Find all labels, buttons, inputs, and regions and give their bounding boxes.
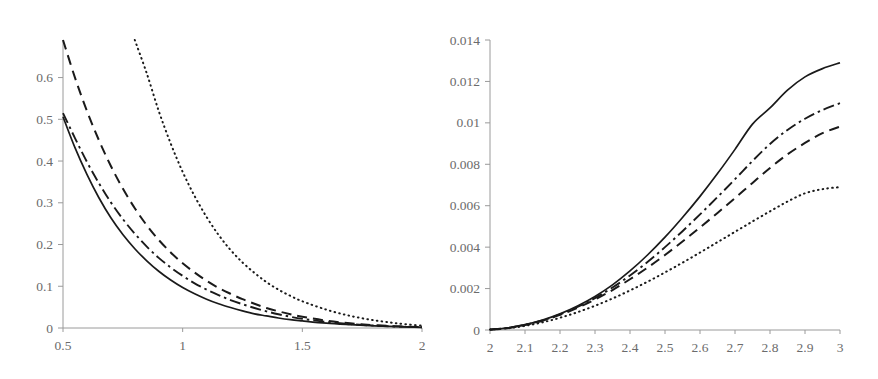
right-tick-labels: 00.0020.0040.0060.0080.010.0120.01422.12… xyxy=(450,33,844,356)
y-tick-label: 0.4 xyxy=(36,154,53,169)
y-tick-label: 0.006 xyxy=(450,198,481,213)
right-axes xyxy=(485,40,840,334)
x-tick-label: 2.6 xyxy=(692,340,709,355)
x-tick-label: 2.2 xyxy=(552,340,569,355)
x-tick-label: 2 xyxy=(419,338,426,353)
x-tick-label: 1.5 xyxy=(294,338,311,353)
y-tick-label: 0.01 xyxy=(456,115,480,130)
curve-dash-dot xyxy=(490,103,840,329)
right-y-ticks xyxy=(485,40,490,330)
x-tick-label: 0.5 xyxy=(55,338,72,353)
curve-solid xyxy=(63,117,422,328)
y-tick-label: 0 xyxy=(46,321,53,336)
y-tick-label: 0.002 xyxy=(450,281,480,296)
x-tick-label: 2 xyxy=(487,340,494,355)
y-tick-label: 0.008 xyxy=(450,157,481,172)
curve-dashed xyxy=(63,40,422,327)
left-y-ticks xyxy=(58,78,63,328)
y-tick-label: 0.012 xyxy=(450,74,480,89)
x-tick-label: 2.4 xyxy=(622,340,639,355)
left-panel-svg: 00.10.20.30.40.50.60.511.52 xyxy=(0,0,440,379)
chart-panel-left: 00.10.20.30.40.50.60.511.52 xyxy=(0,0,440,379)
x-tick-label: 3 xyxy=(837,340,844,355)
y-tick-label: 0.5 xyxy=(36,112,53,127)
left-x-ticks xyxy=(63,328,422,332)
y-tick-label: 0.004 xyxy=(450,240,481,255)
x-tick-label: 2.3 xyxy=(587,340,604,355)
right-x-ticks xyxy=(490,330,840,334)
x-tick-label: 2.8 xyxy=(762,340,779,355)
y-tick-label: 0.6 xyxy=(36,70,53,85)
y-tick-label: 0 xyxy=(473,323,480,338)
curve-dotted xyxy=(490,187,840,330)
curve-dash-dot xyxy=(63,113,422,327)
y-tick-label: 0.1 xyxy=(36,279,53,294)
curve-dotted xyxy=(135,40,422,326)
x-tick-label: 2.1 xyxy=(517,340,534,355)
y-tick-label: 0.2 xyxy=(36,237,53,252)
left-curves xyxy=(63,40,422,327)
right-curves xyxy=(490,63,840,330)
x-tick-label: 2.7 xyxy=(727,340,744,355)
two-panel-line-chart: 00.10.20.30.40.50.60.511.52 00.0020.0040… xyxy=(0,0,878,379)
left-tick-labels: 00.10.20.30.40.50.60.511.52 xyxy=(36,70,425,353)
chart-panel-right: 00.0020.0040.0060.0080.010.0120.01422.12… xyxy=(440,0,878,379)
x-tick-label: 2.5 xyxy=(657,340,674,355)
x-tick-label: 2.9 xyxy=(797,340,814,355)
curve-dashed xyxy=(490,127,840,330)
curve-solid xyxy=(490,63,840,330)
y-tick-label: 0.3 xyxy=(36,195,53,210)
y-tick-label: 0.014 xyxy=(450,33,481,48)
right-panel-svg: 00.0020.0040.0060.0080.010.0120.01422.12… xyxy=(440,0,878,379)
x-tick-label: 1 xyxy=(179,338,186,353)
left-axes xyxy=(58,40,422,332)
